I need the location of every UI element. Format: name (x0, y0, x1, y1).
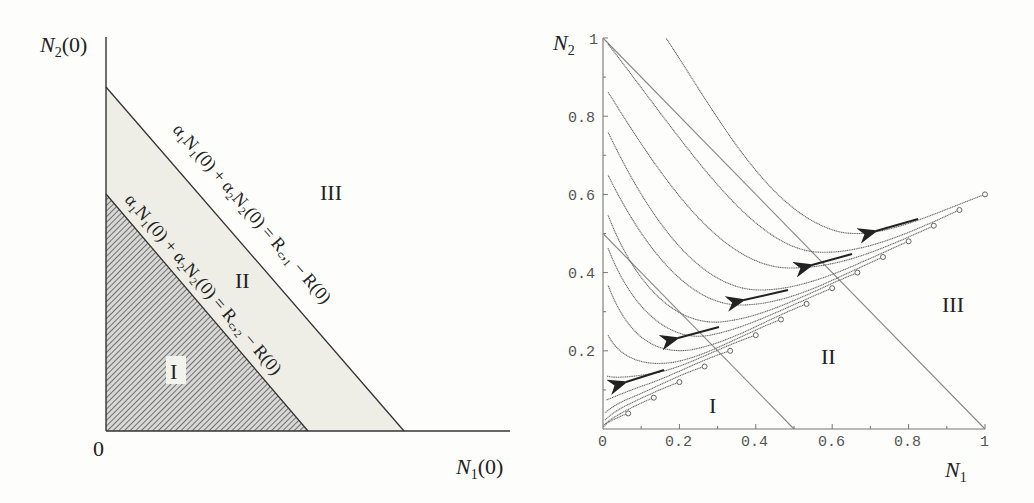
left-panel: N2(0) N1(0) 0 I II III α₁N₁(0) + α₂N₂(0)… (39, 32, 510, 482)
x-tick-0.8: 0.8 (894, 434, 921, 451)
trajectory-6 (607, 335, 756, 377)
right-region-II-label: II (821, 344, 836, 369)
right-x-ticks (641, 424, 985, 429)
figure: N2(0) N1(0) 0 I II III α₁N₁(0) + α₂N₂(0)… (0, 0, 1034, 503)
left-region-I-label: I (170, 359, 177, 384)
trajectory-12 (608, 132, 909, 290)
x-tick-0: 0 (598, 434, 607, 451)
right-x-axis-label: N1 (944, 457, 967, 485)
y-tick-1: 1 (589, 32, 598, 49)
trajectory-15 (666, 38, 985, 234)
right-region-III-label: III (942, 292, 964, 317)
left-y-axis-label: N2(0) (39, 32, 87, 60)
y-tick-0.8: 0.8 (568, 110, 595, 127)
right-y-ticks (603, 38, 608, 390)
x-tick-0.2: 0.2 (665, 434, 692, 451)
right-region-I-label: I (709, 393, 716, 418)
trajectory-9 (608, 248, 832, 336)
arrow-1 (876, 219, 918, 231)
right-inner-boundary (603, 234, 794, 430)
direction-arrows (626, 219, 918, 382)
right-y-axis-label: N2 (552, 30, 575, 58)
x-tick-0.4: 0.4 (741, 434, 768, 451)
trajectory-14 (608, 44, 959, 252)
x-tick-1: 1 (980, 434, 989, 451)
left-x-axis-label: N1(0) (455, 454, 503, 482)
left-origin-label: 0 (93, 436, 104, 461)
start-points (626, 192, 988, 416)
left-region-II-label: II (235, 268, 250, 293)
x-tick-0.6: 0.6 (818, 434, 845, 451)
arrow-3 (744, 290, 788, 300)
y-tick-0.6: 0.6 (568, 188, 595, 205)
right-panel: 0 0.2 0.4 0.6 0.8 1 0.2 0.4 0.6 0.8 1 N2… (552, 30, 989, 485)
trajectory-10 (608, 215, 857, 322)
trajectory-7 (608, 320, 781, 364)
trajectory-13 (608, 92, 934, 268)
trajectory-1 (604, 413, 629, 427)
y-tick-0.4: 0.4 (568, 266, 595, 283)
y-tick-0.2: 0.2 (568, 344, 595, 361)
left-region-III-label: III (320, 180, 342, 205)
trajectory-3 (605, 382, 679, 420)
trajectory-11 (608, 175, 883, 305)
